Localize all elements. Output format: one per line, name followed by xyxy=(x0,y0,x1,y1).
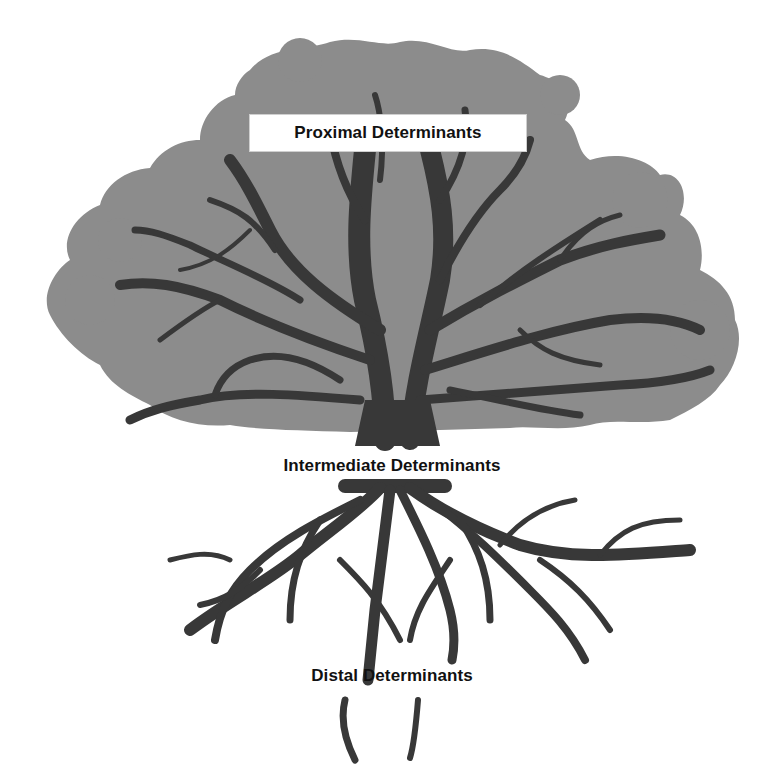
distal-determinants-label: Distal Determinants xyxy=(0,666,784,686)
tree-trunk-base xyxy=(355,400,440,446)
proximal-determinants-label: Proximal Determinants xyxy=(294,123,481,143)
determinants-tree-diagram: Proximal Determinants Intermediate Deter… xyxy=(0,0,784,782)
proximal-label-box: Proximal Determinants xyxy=(249,114,527,152)
intermediate-determinants-label: Intermediate Determinants xyxy=(0,456,784,476)
tree-roots xyxy=(170,486,690,760)
